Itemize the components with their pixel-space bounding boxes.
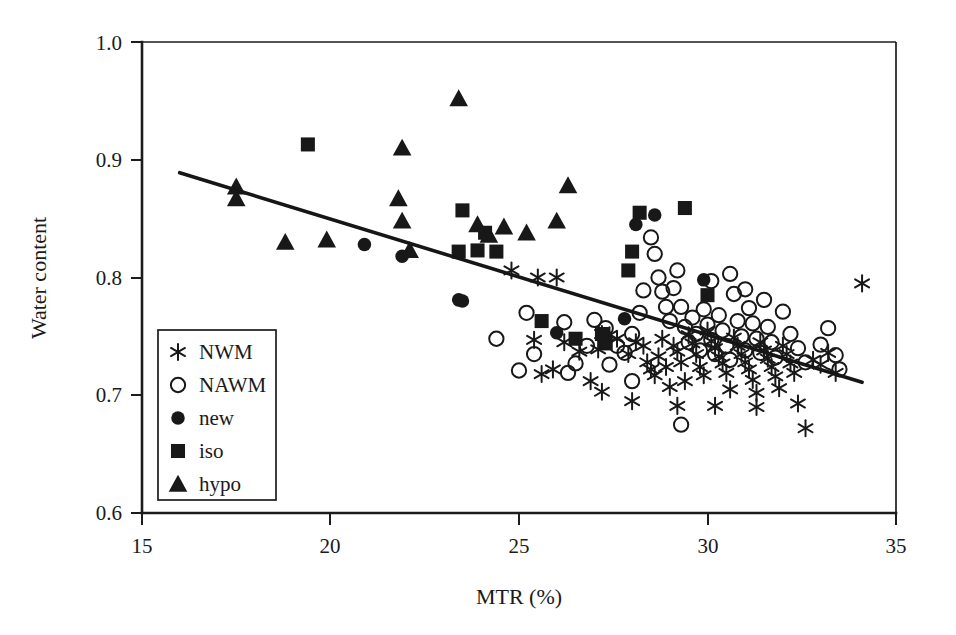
data-point	[648, 208, 662, 222]
data-point	[746, 372, 760, 388]
regression-trend-line	[180, 173, 862, 383]
x-axis-ticks	[142, 513, 896, 525]
y-tick-label-2: 0.8	[96, 266, 122, 290]
legend-marker-new	[171, 411, 185, 425]
data-point	[561, 366, 575, 380]
data-point	[783, 327, 797, 341]
data-point	[629, 218, 643, 232]
data-point	[670, 263, 684, 277]
data-point	[550, 326, 564, 340]
data-point	[776, 304, 790, 318]
data-point	[512, 363, 526, 377]
data-point	[765, 359, 779, 375]
data-point	[389, 189, 408, 206]
data-point	[527, 332, 541, 348]
data-point	[678, 201, 692, 215]
data-point	[625, 374, 639, 388]
data-point	[636, 283, 650, 297]
data-point	[468, 215, 487, 232]
data-point	[568, 356, 582, 370]
data-point	[723, 381, 737, 397]
legend-label-nwm: NWM	[199, 340, 253, 364]
data-point	[715, 323, 729, 337]
data-point	[731, 314, 745, 328]
data-point	[550, 269, 564, 285]
legend-marker-iso	[171, 444, 185, 458]
data-point	[317, 231, 336, 248]
x-axis-title: MTR (%)	[476, 584, 562, 609]
data-point	[599, 336, 613, 350]
data-point	[723, 267, 737, 281]
data-point	[618, 312, 632, 326]
data-point	[471, 243, 485, 257]
data-point	[584, 373, 598, 389]
data-point	[621, 263, 635, 277]
data-point	[663, 379, 677, 395]
data-point	[697, 273, 711, 287]
data-point	[674, 300, 688, 314]
y-axis-tick-labels: 0.6 0.7 0.8 0.9 1.0	[96, 31, 122, 525]
data-point	[659, 300, 673, 314]
data-point	[678, 373, 692, 389]
x-tick-label-2: 25	[509, 534, 530, 558]
data-point	[700, 288, 714, 302]
data-point	[644, 230, 658, 244]
data-point	[393, 212, 412, 229]
data-point	[655, 331, 669, 347]
data-point	[393, 139, 412, 156]
y-tick-label-4: 1.0	[96, 31, 122, 55]
data-point	[449, 89, 468, 106]
data-markers-layer	[227, 89, 869, 436]
data-point	[670, 398, 684, 414]
y-axis-title: Water content	[26, 217, 51, 339]
data-point	[742, 301, 756, 315]
data-point	[547, 212, 566, 229]
data-point	[559, 176, 578, 193]
data-point	[791, 395, 805, 411]
legend: NWM NAWM new iso hypo	[158, 330, 276, 500]
data-point	[697, 367, 711, 383]
x-tick-label-3: 30	[698, 534, 719, 558]
x-tick-label-0: 15	[132, 534, 153, 558]
data-point	[761, 320, 775, 334]
data-point	[495, 218, 514, 235]
data-point	[535, 314, 549, 328]
data-point	[674, 418, 688, 432]
data-point	[652, 348, 666, 364]
data-point	[527, 347, 541, 361]
data-point	[757, 293, 771, 307]
data-point	[750, 399, 764, 415]
data-point	[697, 302, 711, 316]
data-point	[595, 384, 609, 400]
data-point	[455, 203, 469, 217]
series-hypo	[227, 89, 577, 258]
y-tick-label-0: 0.6	[96, 501, 122, 525]
data-point	[674, 354, 688, 370]
legend-label-new: new	[199, 406, 235, 430]
data-point	[358, 238, 372, 252]
data-point	[517, 223, 536, 240]
data-point	[791, 341, 805, 355]
y-axis-ticks	[131, 42, 142, 513]
data-point	[821, 321, 835, 335]
data-point	[633, 206, 647, 220]
data-point	[855, 275, 869, 291]
data-point	[712, 308, 726, 322]
scatter-plot: 0.6 0.7 0.8 0.9 1.0 15 20 25 30 35 MTR (…	[0, 0, 956, 635]
data-point	[301, 137, 315, 151]
data-point	[746, 316, 760, 330]
data-point	[799, 420, 813, 436]
data-point	[456, 294, 470, 308]
x-tick-label-4: 35	[886, 534, 907, 558]
y-tick-label-1: 0.7	[96, 383, 122, 407]
data-point	[648, 247, 662, 261]
chart-figure: 0.6 0.7 0.8 0.9 1.0 15 20 25 30 35 MTR (…	[0, 0, 956, 635]
data-point	[625, 245, 639, 259]
trend-line-layer	[180, 173, 862, 383]
data-point	[519, 306, 533, 320]
data-point	[772, 380, 786, 396]
data-point	[651, 270, 665, 284]
data-point	[602, 357, 616, 371]
data-point	[625, 393, 639, 409]
data-point	[768, 368, 782, 384]
